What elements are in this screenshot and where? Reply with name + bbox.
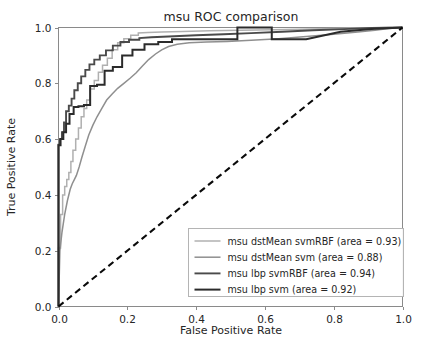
x-tick-label-1.0: 1.0 <box>395 313 412 325</box>
y-tick-label-0.4: 0.4 <box>35 189 52 201</box>
roc-chart-figure: msu ROC comparison 0.00.20.40.60.81.0 0.… <box>0 0 429 343</box>
legend-label-0: msu dstMean svmRBF (area = 0.93) <box>228 236 402 247</box>
x-tick-label-0.4: 0.4 <box>188 313 205 325</box>
chart-canvas: msu ROC comparison 0.00.20.40.60.81.0 0.… <box>0 0 429 343</box>
x-tick-label-0.8: 0.8 <box>326 313 343 325</box>
y-tick-label-0.6: 0.6 <box>35 133 52 145</box>
x-tick-label-0.0: 0.0 <box>51 313 68 325</box>
chart-legend[interactable]: msu dstMean svmRBF (area = 0.93)msu dstM… <box>189 229 404 297</box>
chart-title: msu ROC comparison <box>164 9 299 24</box>
x-tick-label-0.2: 0.2 <box>119 313 136 325</box>
y-tick-label-0.0: 0.0 <box>35 301 52 313</box>
legend-label-2: msu lbp svmRBF (area = 0.94) <box>228 268 376 279</box>
x-tick-label-0.6: 0.6 <box>257 313 274 325</box>
legend-label-1: msu dstMean svm (area = 0.88) <box>228 252 383 263</box>
x-axis-label: False Positive Rate <box>180 324 282 337</box>
y-axis-label: True Positive Rate <box>5 118 18 217</box>
legend-label-3: msu lbp svm (area = 0.92) <box>228 284 357 295</box>
y-tick-label-0.2: 0.2 <box>35 245 52 257</box>
y-tick-label-0.8: 0.8 <box>35 77 52 89</box>
y-tick-label-1.0: 1.0 <box>35 22 52 34</box>
